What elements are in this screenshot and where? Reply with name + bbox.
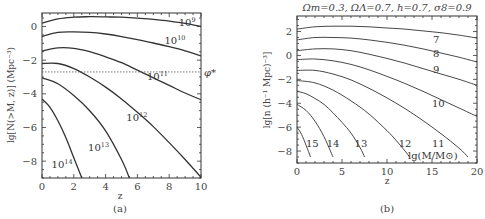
panel-a: φ* 10910101011101210131014 0246810 0−2−4…: [6, 13, 216, 214]
curve-label: 10: [432, 98, 445, 109]
curve-label: 7: [433, 34, 439, 45]
panel-a-y-tick-labels: 0−2−4−6−8: [22, 21, 37, 167]
x-tick-label: 6: [134, 181, 140, 192]
y-tick-label: −8: [22, 156, 37, 167]
curve-10e9: [42, 17, 201, 27]
y-tick-label: 0: [286, 50, 292, 61]
x-tick-label: 15: [426, 166, 439, 177]
curve-label: 1013: [88, 141, 109, 153]
panel-b-caption: (b): [380, 203, 394, 214]
curve-label: 8: [433, 48, 439, 59]
curve-label: 14: [327, 138, 340, 149]
y-tick-label: −4: [22, 88, 37, 99]
y-tick-label: −6: [277, 122, 292, 133]
x-tick-label: 4: [102, 181, 108, 192]
x-tick-label: 10: [195, 181, 208, 192]
y-tick-label: −2: [22, 55, 37, 66]
curve-label: 1011: [147, 70, 168, 82]
y-tick-label: −8: [277, 146, 292, 157]
curve-label: 9: [433, 64, 439, 75]
curve-label: 11: [432, 138, 445, 149]
x-tick-label: 5: [339, 166, 345, 177]
curve-9: [297, 49, 477, 86]
curve-10: [297, 59, 477, 116]
x-tick-label: 8: [166, 181, 172, 192]
y-tick-label: 2: [286, 26, 292, 37]
y-tick-label: −4: [277, 98, 292, 109]
curve-label: 13: [355, 138, 368, 149]
panel-a-x-axis-label: z: [118, 191, 123, 201]
curve-label: 1012: [126, 111, 147, 123]
x-tick-label: 20: [471, 166, 484, 177]
panel-a-caption: (a): [113, 203, 127, 214]
curve-label: 109: [179, 16, 196, 28]
y-tick-label: 0: [31, 21, 37, 32]
y-tick-label: −2: [277, 74, 292, 85]
phi-star-label: φ*: [204, 67, 216, 78]
curve-label: 1010: [164, 34, 185, 46]
curve-7: [297, 26, 477, 38]
x-tick-label: 2: [71, 181, 77, 192]
panel-b-y-tick-labels: 20−2−4−6−8: [277, 26, 292, 157]
panel-b-title: Ωm=0.3, ΩΛ=0.7, h=0.7, σ8=0.9: [301, 2, 472, 13]
curve-label: 1014: [52, 158, 73, 170]
panel-a-y-axis-label: lg[N(>M, z)] (Mpc⁻³): [6, 47, 16, 143]
curve-10e11: [42, 48, 201, 100]
panel-b: Ωm=0.3, ΩΛ=0.7, h=0.7, σ8=0.9 7891011121…: [262, 2, 483, 214]
panel-b-x-axis-label: z: [385, 176, 390, 186]
mass-annotation: lg(M/M⊙): [408, 150, 458, 161]
panel-b-y-axis-label: lg[n (h⁻¹ Mpc)⁻³]: [262, 52, 272, 129]
curve-label: 15: [306, 138, 319, 149]
figure: φ* 10910101011101210131014 0246810 0−2−4…: [0, 0, 485, 219]
x-tick-label: 0: [39, 181, 45, 192]
curve-label: 12: [399, 138, 412, 149]
x-tick-label: 0: [294, 166, 300, 177]
y-tick-label: −6: [22, 122, 37, 133]
panel-b-curves: [297, 26, 477, 157]
panel-a-x-tick-labels: 0246810: [39, 181, 208, 192]
